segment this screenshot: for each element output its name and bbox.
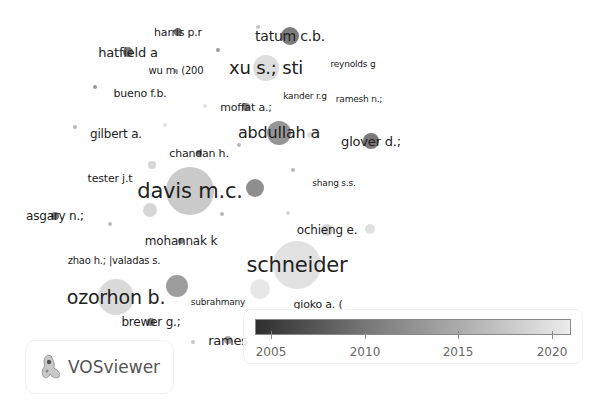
node-label[interactable]: gioko a. ( [294, 299, 343, 310]
tick-mark [271, 331, 272, 339]
network-node[interactable] [250, 279, 270, 299]
network-node[interactable] [246, 179, 264, 197]
node-label[interactable]: rames [208, 334, 248, 347]
network-node[interactable] [216, 48, 220, 52]
node-label[interactable]: subrahmany [191, 298, 245, 307]
node-label[interactable]: mohannak k [145, 235, 217, 247]
tick-label-2010: 2010 [350, 345, 381, 359]
node-label[interactable]: tester j.t [88, 173, 133, 184]
network-node[interactable] [237, 143, 241, 147]
node-label[interactable]: abdullah a [238, 125, 320, 141]
node-label[interactable]: xu s.; sti [229, 59, 303, 77]
node-label[interactable]: asgary n.; [26, 210, 84, 222]
node-label[interactable]: davis m.c. [137, 181, 242, 202]
node-label[interactable]: brewer g.; [121, 316, 180, 328]
tick-label-2020: 2020 [537, 345, 568, 359]
brand-name: VOSviewer [68, 357, 160, 377]
node-label[interactable]: kander r.g [283, 92, 327, 101]
node-label[interactable]: ochieng e. [297, 224, 358, 236]
node-label[interactable]: chandan h. [169, 148, 228, 159]
node-label[interactable]: zhao h.; |valadas s. [68, 256, 161, 266]
tick-mark [458, 331, 459, 339]
tick-label-2015: 2015 [443, 345, 474, 359]
node-label[interactable]: hatfield a [98, 46, 157, 59]
network-node[interactable] [203, 104, 207, 108]
network-node[interactable] [365, 224, 375, 234]
node-label[interactable]: tatum c.b. [255, 29, 325, 43]
network-node[interactable] [220, 212, 224, 216]
node-label[interactable]: reynolds g [330, 60, 375, 69]
node-label[interactable]: harris p.r [154, 27, 202, 38]
node-label[interactable]: bueno f.b. [114, 88, 167, 99]
tick-mark [552, 331, 553, 339]
network-node[interactable] [73, 125, 77, 129]
node-label[interactable]: schneider [247, 255, 348, 276]
network-node[interactable] [286, 211, 290, 215]
network-node[interactable] [143, 203, 157, 217]
network-node[interactable] [291, 168, 295, 172]
node-label[interactable]: gilbert a. [90, 128, 142, 140]
node-label[interactable]: moffat a.; [220, 102, 272, 113]
network-node[interactable] [191, 340, 195, 344]
vosviewer-logo-icon [39, 353, 63, 381]
node-label[interactable]: ozorhon b. [67, 288, 166, 307]
tick-label-2005: 2005 [256, 345, 287, 359]
vosviewer-brand-badge: VOSviewer [25, 340, 174, 394]
network-node[interactable] [108, 222, 112, 226]
node-label[interactable]: ramesh n.; [336, 95, 382, 104]
color-gradient-bar [255, 319, 571, 335]
network-node[interactable] [166, 275, 188, 297]
node-label[interactable]: wu m. (200 [149, 66, 204, 76]
network-node[interactable] [148, 161, 156, 169]
node-label[interactable]: shang s.s. [312, 179, 355, 188]
network-node[interactable] [163, 123, 167, 127]
color-scale-legend: 2005 2010 2015 2020 [243, 309, 583, 364]
node-label[interactable]: glover d.; [341, 135, 401, 148]
network-node[interactable] [93, 85, 97, 89]
tick-mark [365, 331, 366, 339]
